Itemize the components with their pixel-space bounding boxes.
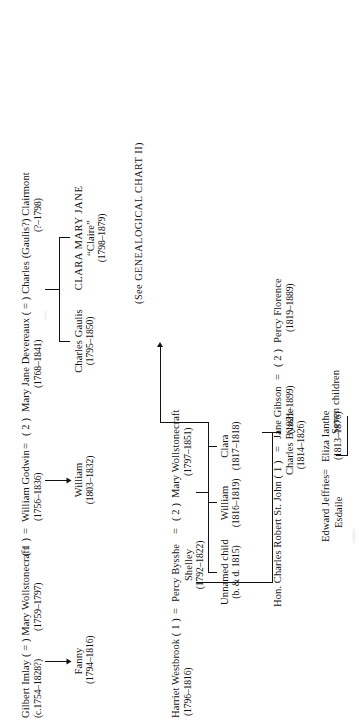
st-john-equals-1: = — [272, 446, 284, 452]
william-godwin-jr-dates: (1803–1832) — [85, 452, 96, 508]
node-imlay-dates: (c.1754–1828?) — [33, 659, 44, 718]
node-hon-charles-st-john: Hon. Charles Robert St. John ( 1 ) — [272, 460, 284, 607]
charles-gaulis-dates: (1795–1850) — [85, 303, 96, 379]
node-charles-bysshe: Charles Bysshe (1814–1826) — [284, 415, 306, 475]
william-godwin-name: William Godwin — [20, 450, 32, 522]
arrow-imlay-to-fanny — [67, 659, 72, 665]
connector-percy-florence-riser — [160, 422, 209, 423]
rotated-chart-stage: Gilbert Imlay ( = ) Mary Wollstonecraft … — [0, 0, 362, 724]
arrow-godwin-to-william — [67, 478, 72, 484]
harriet-westbrook-label: Harriet Westbrook ( 1 ) — [170, 618, 182, 718]
clairmont-dates: (?–1798) — [33, 198, 44, 232]
node-st-john-equals-1: = — [272, 446, 284, 452]
node-godwin-equals-1: = — [20, 528, 32, 534]
clara-shelley-dates: (1817–1818) — [231, 419, 242, 473]
node-shelley-marriage-2: ( 2 ) — [170, 503, 182, 521]
william-godwin-jr-name: William — [73, 452, 85, 508]
node-clairmont-dates: (?–1798) — [33, 198, 44, 232]
st-john-marriage-2-label: ( 2 ) — [272, 349, 284, 367]
connector-clairmont-stem — [45, 289, 60, 290]
connector-to-clara-mary-jane — [59, 237, 70, 238]
node-percy-bysshe-shelley: Percy Bysshe — [170, 544, 182, 602]
connector-to-william-shelley — [208, 502, 217, 503]
clara-shelley-name: Clara — [219, 419, 231, 473]
clara-mary-jane-nickname: “Claire” — [85, 180, 97, 296]
node-mary-wollstonecraft-shelley-dates: (1797–1851) — [183, 428, 194, 476]
st-john-equals-2: = — [272, 374, 284, 380]
node-wollstonecraft-dates: (1759–1797) — [33, 583, 44, 631]
esdaile-equals: = — [320, 469, 332, 475]
edward-jeffries-name: Edward Jeffries — [320, 475, 332, 543]
node-percy-florence: Percy Florence — [272, 278, 284, 343]
shelley-equals-1: = — [170, 608, 182, 614]
hon-charles-st-john-label: Hon. Charles Robert St. John ( 1 ) — [272, 460, 284, 607]
seven-children-label: Seven children — [330, 370, 342, 434]
node-edward-jeffries-esdaile: Edward Jeffries — [320, 475, 332, 543]
node-william-shelley: William (1816–1819) — [219, 475, 241, 531]
godwin-marriage-2-label: ( 2 ) — [20, 418, 32, 436]
node-devereaux-dates: (1768–1841) — [33, 340, 44, 388]
node-seven-children: Seven children — [330, 370, 342, 434]
clara-mary-jane-name: CLARA MARY JANE — [73, 180, 85, 296]
connector-clairmont-bar — [59, 237, 60, 342]
clara-mary-jane-dates: (1798–1879) — [97, 180, 108, 296]
node-godwin-marriage-2: ( 2 ) — [20, 418, 32, 436]
shelley-marriage-2-label: ( 2 ) — [170, 503, 182, 521]
arrow-to-percy-florence — [157, 342, 163, 347]
jane-gibson-name: Jane Gibson — [272, 386, 284, 439]
percy-florence-dates: (1819–1889) — [285, 284, 296, 332]
node-st-john-marriage-2: ( 2 ) — [272, 349, 284, 367]
node-esdaile-equals: = — [320, 469, 332, 475]
node-william-godwin-jr: William (1803–1832) — [73, 452, 95, 508]
node-harriet-westbrook: Harriet Westbrook ( 1 ) — [170, 618, 182, 718]
connector-to-charles-gaulis — [59, 341, 70, 342]
fanny-dates: (1794–1816) — [85, 638, 96, 684]
node-see-chart-ii: (See GENEALOGICAL CHART II) — [128, 142, 146, 304]
charles-gaulis-name: Charles Gaulis — [73, 303, 85, 379]
node-clara-shelley: Clara (1817–1818) — [219, 419, 241, 473]
node-unnamed-child: Unnamed child (b. & d. 1815) — [219, 537, 241, 607]
wollstonecraft-dates: (1759–1797) — [33, 583, 44, 631]
charles-bysshe-dates: (1814–1826) — [296, 415, 307, 475]
genealogical-chart: Gilbert Imlay ( = ) Mary Wollstonecraft … — [0, 0, 362, 724]
node-fanny: Fanny (1794–1816) — [73, 638, 95, 684]
node-shelley-surname: Shelley (1792–1822) — [183, 534, 205, 596]
scan-speckle — [44, 310, 47, 320]
charles-bysshe-name: Charles Bysshe — [284, 415, 296, 475]
node-st-john-equals-2: = — [272, 374, 284, 380]
mary-wollstonecraft-shelley-dates: (1797–1851) — [183, 428, 194, 476]
imlay-wollstonecraft-label: Gilbert Imlay ( = ) Mary Wollstonecraft — [20, 547, 32, 718]
shelley-equals-2: = — [170, 528, 182, 534]
node-godwin-equals-2: = — [20, 443, 32, 449]
connector-mary-percy-bar — [208, 422, 209, 573]
node-godwin-marriage-1: ( 1 ) — [20, 538, 32, 556]
connector-to-clara-shelley — [208, 446, 217, 447]
william-godwin-dates: (1756–1836) — [33, 473, 44, 521]
shelley-surname: Shelley — [183, 534, 195, 596]
devereaux-dates: (1768–1841) — [33, 340, 44, 388]
godwin-equals-1: = — [20, 528, 32, 534]
connector-esdaile-bar — [347, 416, 348, 456]
node-william-godwin-dates: (1756–1836) — [33, 473, 44, 521]
fanny-name: Fanny — [73, 638, 85, 684]
scan-speckle — [352, 528, 356, 544]
see-genealogical-chart-ii-label: (See GENEALOGICAL CHART II) — [133, 142, 144, 304]
node-imlay-wollstonecraft: Gilbert Imlay ( = ) Mary Wollstonecraft — [20, 547, 32, 718]
node-esdaile-surname: Esdaile — [333, 496, 345, 528]
percy-bysshe-name: Percy Bysshe — [170, 544, 182, 602]
node-jane-gibson: Jane Gibson — [272, 386, 284, 439]
node-devereaux-clairmont: Mary Jane Devereaux ( = ) Charles (Gauli… — [20, 172, 32, 412]
unnamed-child-name: Unnamed child — [219, 537, 231, 607]
node-clara-mary-jane: CLARA MARY JANE “Claire” (1798–1879) — [73, 180, 107, 296]
percy-florence-name: Percy Florence — [272, 278, 284, 343]
william-shelley-dates: (1816–1819) — [231, 475, 242, 531]
node-percy-florence-dates: (1819–1889) — [285, 284, 296, 332]
godwin-equals-2: = — [20, 443, 32, 449]
connector-to-unnamed-child — [208, 572, 217, 573]
percy-bysshe-dates: (1792–1822) — [195, 534, 206, 596]
devereaux-clairmont-label: Mary Jane Devereaux ( = ) Charles (Gauli… — [20, 172, 32, 412]
node-charles-gaulis: Charles Gaulis (1795–1850) — [73, 303, 95, 379]
node-harriet-westbrook-dates: (1796–1816) — [183, 668, 194, 716]
node-william-godwin: William Godwin — [20, 450, 32, 522]
harriet-westbrook-dates: (1796–1816) — [183, 668, 194, 716]
